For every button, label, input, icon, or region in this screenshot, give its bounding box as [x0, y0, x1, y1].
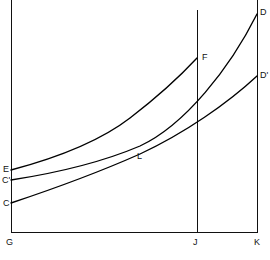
label-curve-f-end: F	[202, 52, 208, 62]
plot-canvas: E C' C F D D' L G J K	[0, 0, 270, 260]
label-mark-k: K	[254, 237, 260, 247]
curve-cd	[11, 14, 257, 180]
label-curve-dprime-end: D'	[260, 70, 268, 80]
label-curve-d-end: D	[260, 7, 267, 17]
label-mark-j: J	[193, 237, 198, 247]
curve-diagram-figure: E C' C F D D' L G J K	[0, 0, 270, 260]
curve-cdprime	[11, 76, 257, 203]
label-origin-g: G	[6, 237, 13, 247]
curve-ef	[11, 58, 197, 170]
label-intersection-l: L	[137, 151, 142, 161]
label-curve-cprime-start: C'	[2, 175, 10, 185]
label-curve-c-start: C	[3, 198, 10, 208]
label-curve-e-start: E	[3, 164, 9, 174]
